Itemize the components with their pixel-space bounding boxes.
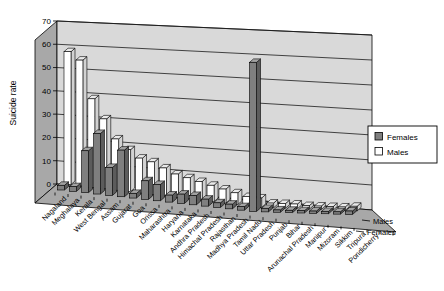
bar-females-orissa — [142, 177, 153, 199]
series-axis-label-females: Females — [367, 228, 396, 237]
y-axis-tick-label: 70 — [42, 17, 51, 26]
y-axis-tick-label: 30 — [42, 110, 51, 119]
legend-label-females: Females — [387, 133, 418, 142]
series-axis-tick — [356, 231, 364, 232]
bar-females-maharashtra — [154, 181, 165, 201]
bar-males-nagaland — [64, 48, 75, 184]
bar-females-gujarat — [118, 147, 129, 197]
y-axis-tick-label: 50 — [42, 63, 51, 72]
bar-females-uttar-pradesh — [250, 59, 261, 212]
bar-females-andhra-pradesh — [190, 192, 201, 205]
y-axis-tick-label: 10 — [42, 157, 51, 166]
y-axis-title: Suicide rate — [8, 80, 18, 125]
y-axis-tick-label: 60 — [42, 40, 51, 49]
legend-swatch-males — [375, 148, 383, 156]
series-axis-label-males: Males — [373, 217, 393, 226]
legend-label-males: Males — [387, 148, 408, 157]
legend-swatch-females — [375, 133, 383, 141]
y-axis-tick-label: 0 — [47, 180, 52, 189]
chart-figure: 010203040506070Suicide rateNagalandMegha… — [0, 0, 444, 291]
bar-females-west-bengal — [94, 130, 105, 194]
y-axis-tick-label: 20 — [42, 133, 51, 142]
bar-females-kerala — [82, 147, 93, 192]
bar-females-assam — [106, 164, 117, 195]
suicide-rate-3d-bar-chart: 010203040506070Suicide rateNagalandMegha… — [0, 0, 444, 291]
bar-females-karnataka — [178, 191, 189, 204]
y-axis-tick-label: 40 — [42, 87, 51, 96]
legend: FemalesMales — [368, 126, 437, 163]
